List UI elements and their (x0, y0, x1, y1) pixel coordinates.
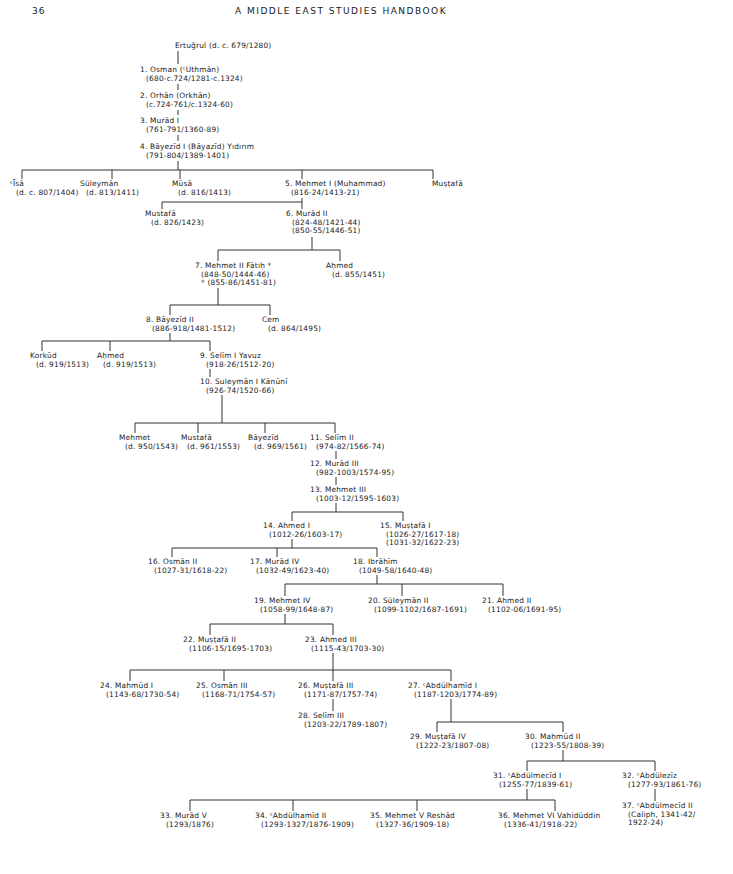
ruler-name: Ertuğrul (d. c. 679/1280) (175, 42, 271, 51)
reign-dates: * (855-86/1451-81) (195, 279, 276, 288)
reign-dates: (1293/1876) (160, 821, 214, 830)
reign-dates: 1922-24) (622, 819, 696, 828)
reign-dates: (1327-36/1909-18) (370, 821, 455, 830)
tree-node-isa: ᶜĪsā(d. c. 807/1404) (10, 180, 79, 197)
reign-dates: (1049-58/1640-48) (353, 567, 432, 576)
reign-dates: (d. 950/1543) (119, 443, 178, 452)
tree-node-korkud: Korkūd(d. 919/1513) (30, 352, 89, 369)
tree-node-s18: 18. Ibrāhīm(1049-58/1640-48) (353, 558, 432, 575)
tree-node-musa: Mūsā(d. 816/1413) (172, 180, 231, 197)
tree-node-s1: 1. Osman (ᶜUthmān)(680-c.724/1281-c.1324… (140, 66, 243, 83)
tree-node-s3: 3. Murād I(761-791/1360-89) (140, 117, 219, 134)
tree-node-cem: Cem(d. 864/1495) (262, 316, 321, 333)
tree-node-s34: 34. ᶜAbdülhamīd II(1293-1327/1876-1909) (255, 812, 354, 829)
reign-dates: (1027-31/1618-22) (148, 567, 227, 576)
tree-node-s19: 19. Mehmet IV(1058-99/1648-87) (254, 597, 333, 614)
reign-dates: (d. 813/1411) (80, 189, 139, 198)
tree-node-mehmet_c: Mehmet(d. 950/1543) (119, 434, 178, 451)
reign-dates: (1277-93/1861-76) (622, 781, 701, 790)
reign-dates: (d. 919/1513) (97, 361, 156, 370)
tree-node-s37: 37. ᶜAbdülmecīd II(Caliph, 1341-42/1922-… (622, 802, 696, 828)
reign-dates: (1171-87/1757-74) (298, 691, 377, 700)
tree-node-s31: 31. ᶜAbdülmecīd I(1255-77/1839-61) (493, 772, 572, 789)
reign-dates: (918-26/1512-20) (200, 361, 275, 370)
tree-node-s26: 26. Muṣṭafā III(1171-87/1757-74) (298, 682, 377, 699)
tree-node-bayezid_c: Bāyezīd(d. 969/1561) (248, 434, 307, 451)
reign-dates: (c.724-761/c.1324-60) (140, 101, 233, 110)
reign-dates: (816-24/1413-21) (285, 189, 386, 198)
reign-dates: (886-918/1481-1512) (146, 325, 235, 334)
reign-dates: (850-55/1446-51) (286, 227, 361, 236)
reign-dates: (1168-71/1754-57) (196, 691, 275, 700)
reign-dates: (d. 826/1423) (145, 219, 204, 228)
reign-dates: (1102-06/1691-95) (482, 606, 561, 615)
tree-node-s4: 4. Bāyezīd I (Bāyazīd) Yıdırım(791-804/1… (140, 143, 254, 160)
tree-node-s32: 32. ᶜAbdülezīz(1277-93/1861-76) (622, 772, 701, 789)
reign-dates: (1222-23/1807-08) (410, 742, 489, 751)
reign-dates: (1099-1102/1687-1691) (368, 606, 467, 615)
tree-node-s16: 16. Osmān II(1027-31/1618-22) (148, 558, 227, 575)
reign-dates: (1106-15/1695-1703) (183, 645, 272, 654)
reign-dates: (d. 961/1553) (181, 443, 240, 452)
tree-node-mustafa_c1: Muṣṭafā (432, 180, 463, 189)
reign-dates: (680-c.724/1281-c.1324) (140, 75, 243, 84)
reign-dates: (1003-12/1595-1603) (310, 495, 399, 504)
reign-dates: (791-804/1389-1401) (140, 152, 254, 161)
tree-node-s25: 25. Osmān III(1168-71/1754-57) (196, 682, 275, 699)
reign-dates: (1058-99/1648-87) (254, 606, 333, 615)
tree-node-mustafa_c3: Mustafā(d. 961/1553) (181, 434, 240, 451)
tree-node-s9: 9. Selīm I Yavuz(918-26/1512-20) (200, 352, 275, 369)
reign-dates: (1115-43/1703-30) (305, 645, 384, 654)
tree-node-s12: 12. Murād III(982-1003/1574-95) (310, 460, 394, 477)
reign-dates: (974-82/1566-74) (310, 443, 385, 452)
reign-dates: (1223-55/1808-39) (525, 742, 604, 751)
tree-node-s33: 33. Murād V(1293/1876) (160, 812, 214, 829)
reign-dates: (1187-1203/1774-89) (408, 691, 497, 700)
tree-node-s5: 5. Mehmet I (Muhammad)(816-24/1413-21) (285, 180, 386, 197)
reign-dates: (1143-68/1730-54) (100, 691, 179, 700)
tree-node-s29: 29. Muṣṭafā IV(1222-23/1807-08) (410, 733, 489, 750)
tree-node-s8: 8. Bāyezīd II(886-918/1481-1512) (146, 316, 235, 333)
tree-node-ertugrul: Ertuğrul (d. c. 679/1280) (175, 42, 271, 51)
reign-dates: (1012-26/1603-17) (263, 531, 342, 540)
tree-node-mustafa_c2: Mustafā(d. 826/1423) (145, 210, 204, 227)
tree-node-s30: 30. Maḥmūd II(1223-55/1808-39) (525, 733, 604, 750)
tree-node-s17: 17. Murād IV(1032-49/1623-40) (250, 558, 329, 575)
reign-dates: (d. 864/1495) (262, 325, 321, 334)
reign-dates: (926-74/1520-66) (200, 387, 287, 396)
reign-dates: (1255-77/1839-61) (493, 781, 572, 790)
reign-dates: (1032-49/1623-40) (250, 567, 329, 576)
tree-node-s27: 27. ᶜAbdülhamīd I(1187-1203/1774-89) (408, 682, 497, 699)
tree-node-s14: 14. Ahmed I(1012-26/1603-17) (263, 522, 342, 539)
tree-node-s28: 28. Selīm III(1203-22/1789-1807) (298, 712, 387, 729)
tree-node-s24: 24. Mahmūd I(1143-68/1730-54) (100, 682, 179, 699)
tree-node-s2: 2. Orhān (Orkhān)(c.724-761/c.1324-60) (140, 92, 233, 109)
reign-dates: (982-1003/1574-95) (310, 469, 394, 478)
tree-node-s20: 20. Süleymān II(1099-1102/1687-1691) (368, 597, 467, 614)
tree-node-ahmed_c2: Aḥmed(d. 919/1513) (97, 352, 156, 369)
ruler-name: Muṣṭafā (432, 180, 463, 189)
reign-dates: (1336-41/1918-22) (498, 821, 600, 830)
tree-node-s15: 15. Muṣṭafā I(1026-27/1617-18)(1031-32/1… (380, 522, 459, 548)
tree-node-s7: 7. Mehmet II Fātiḥ *(848-50/1444-46)* (8… (195, 262, 276, 288)
tree-node-s35: 35. Mehmet V Reshād(1327-36/1909-18) (370, 812, 455, 829)
tree-node-suleyman_c: Süleymān(d. 813/1411) (80, 180, 139, 197)
tree-node-s13: 13. Mehmet III(1003-12/1595-1603) (310, 486, 399, 503)
tree-node-s23: 23. Ahmed III(1115-43/1703-30) (305, 636, 384, 653)
reign-dates: (761-791/1360-89) (140, 126, 219, 135)
tree-node-s22: 22. Muṣṭafā II(1106-15/1695-1703) (183, 636, 272, 653)
tree-node-s10: 10. Suleymān I Kānūnī(926-74/1520-66) (200, 378, 287, 395)
tree-node-s6: 6. Murād II(824-48/1421-44)(850-55/1446-… (286, 210, 361, 236)
reign-dates: (d. 919/1513) (30, 361, 89, 370)
reign-dates: (d. 816/1413) (172, 189, 231, 198)
reign-dates: (d. 855/1451) (326, 271, 385, 280)
tree-node-s11: 11. Selīm II(974-82/1566-74) (310, 434, 385, 451)
reign-dates: (d. 969/1561) (248, 443, 307, 452)
reign-dates: (1203-22/1789-1807) (298, 721, 387, 730)
tree-node-s36: 36. Mehmet VI Vahidüddin(1336-41/1918-22… (498, 812, 600, 829)
tree-node-s21: 21. Ahmed II(1102-06/1691-95) (482, 597, 561, 614)
reign-dates: (1031-32/1622-23) (380, 539, 459, 548)
reign-dates: (d. c. 807/1404) (10, 189, 79, 198)
reign-dates: (1293-1327/1876-1909) (255, 821, 354, 830)
tree-node-ahmed_c1: Aḥmed(d. 855/1451) (326, 262, 385, 279)
